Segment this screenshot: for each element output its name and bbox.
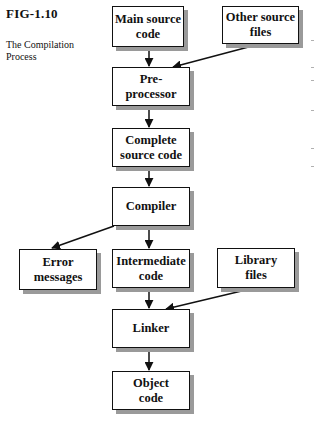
node-label: Library files (235, 253, 277, 283)
node-label: Main source code (115, 12, 181, 42)
node-compiler: Compiler (112, 187, 190, 226)
edge-compiler-to-error (52, 226, 114, 248)
node-main-source-code: Main source code (112, 6, 184, 47)
node-label: Linker (133, 321, 170, 336)
node-label: Error messages (34, 255, 83, 285)
node-other-source-files: Other source files (222, 6, 299, 44)
node-label: Complete source code (120, 133, 182, 163)
node-object-code: Object code (112, 371, 190, 410)
node-label: Object code (133, 376, 169, 406)
node-label: Intermediate code (116, 254, 185, 284)
node-label: Other source files (226, 10, 295, 40)
node-label: Pre- processor (125, 72, 176, 102)
node-label: Compiler (126, 199, 177, 214)
node-linker: Linker (112, 309, 190, 348)
edge-other-to-preprocessor (173, 45, 256, 67)
node-intermediate-code: Intermediate code (112, 249, 190, 288)
edge-library-to-linker (166, 289, 250, 309)
node-error-messages: Error messages (19, 249, 97, 290)
node-library-files: Library files (217, 248, 295, 288)
node-complete-source-code: Complete source code (112, 128, 190, 167)
node-preprocessor: Pre- processor (112, 67, 190, 106)
